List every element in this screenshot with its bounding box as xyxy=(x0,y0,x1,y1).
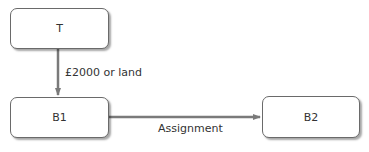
node-b1: B1 xyxy=(10,97,109,138)
node-b2-label: B2 xyxy=(304,111,319,124)
edge-label-b1-to-b2: Assignment xyxy=(158,122,223,135)
edge-label-t-to-b1: £2000 or land xyxy=(65,66,142,79)
node-b1-label: B1 xyxy=(52,111,67,124)
node-t-label: T xyxy=(56,22,63,35)
node-t: T xyxy=(10,8,109,49)
node-b2: B2 xyxy=(262,96,360,138)
